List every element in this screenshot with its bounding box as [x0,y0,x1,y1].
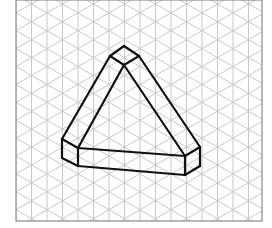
grid-line-diagonal [16,0,262,13]
shape-edge [124,56,139,65]
triangular-prism-frame [62,46,200,175]
grid-line-diagonal [16,13,262,155]
shape-edge [62,139,78,148]
shape-edge [185,166,200,175]
shape-edge [185,147,200,156]
shape-edge [110,56,124,65]
shape-edge [78,166,185,175]
grid-line-diagonal [16,86,262,228]
isometric-grid [16,0,262,228]
grid-line-diagonal [16,49,262,191]
grid-line-diagonal [16,14,262,156]
isometric-diagram [0,0,272,228]
grid-line-diagonal [16,31,262,173]
shape-edge [62,158,78,166]
shape-edge [78,148,185,156]
grid-line-diagonal [16,175,262,228]
grid-line-diagonal [16,210,262,228]
grid-line-diagonal [16,0,262,30]
grid-line-diagonal [16,0,262,138]
shape-edge [110,46,124,56]
grid-line-diagonal [16,0,262,47]
grid-line-diagonal [16,174,262,228]
grid-line-diagonal [16,84,262,226]
grid-line-diagonal [16,0,262,49]
